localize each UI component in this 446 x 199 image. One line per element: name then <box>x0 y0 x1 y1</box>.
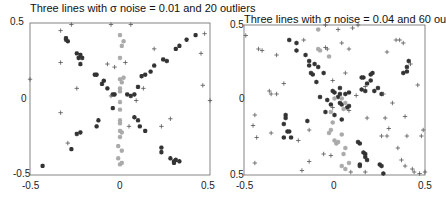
data-point-marker <box>376 86 380 90</box>
outlier-marker <box>363 170 367 174</box>
outlier-marker <box>356 23 360 27</box>
outlier-marker <box>385 50 389 54</box>
data-point-marker <box>327 131 331 135</box>
data-point-marker <box>343 146 347 150</box>
data-point-marker <box>116 156 120 160</box>
scatter-plots <box>0 0 446 199</box>
outlier-marker <box>253 161 257 165</box>
outlier-marker <box>390 101 394 105</box>
data-point-marker <box>138 124 142 128</box>
data-point-marker <box>330 120 334 124</box>
data-point-marker <box>341 152 345 156</box>
outlier-marker <box>58 60 62 64</box>
data-point-marker <box>358 164 362 168</box>
data-point-marker <box>96 118 100 122</box>
data-point-marker <box>294 48 298 52</box>
data-point-marker <box>285 129 289 133</box>
data-point-marker <box>177 44 181 48</box>
data-point-marker <box>312 62 316 66</box>
outlier-marker <box>141 86 145 90</box>
data-point-marker <box>40 164 44 168</box>
outlier-marker <box>403 114 407 118</box>
outlier-marker <box>307 128 311 132</box>
data-point-marker <box>361 75 365 79</box>
outlier-marker <box>419 134 423 138</box>
data-point-marker <box>118 107 122 111</box>
data-point-marker <box>318 95 322 99</box>
data-point-marker <box>332 113 336 117</box>
outlier-marker <box>75 86 79 90</box>
outlier-marker <box>423 170 427 174</box>
data-point-marker <box>340 117 344 121</box>
data-point-marker <box>120 44 124 48</box>
outlier-marker <box>383 116 387 120</box>
data-point-marker <box>132 115 136 119</box>
data-point-marker <box>111 106 115 110</box>
outlier-marker <box>405 134 409 138</box>
data-point-marker <box>159 145 163 149</box>
data-point-marker <box>405 65 409 69</box>
outlier-marker <box>282 81 286 85</box>
data-point-marker <box>340 164 344 168</box>
data-point-marker <box>159 150 163 154</box>
plot-area-0 <box>28 22 212 175</box>
data-point-marker <box>118 121 122 125</box>
data-point-marker <box>343 92 347 96</box>
data-point-marker <box>343 167 347 171</box>
outlier-marker <box>58 110 62 114</box>
data-point-marker <box>316 27 320 31</box>
data-point-marker <box>314 80 318 84</box>
data-point-marker <box>152 63 156 67</box>
data-point-marker <box>369 78 373 82</box>
data-point-marker <box>307 59 311 63</box>
data-point-marker <box>321 71 325 75</box>
data-point-marker <box>120 80 124 84</box>
outlier-marker <box>202 31 206 35</box>
outlier-marker <box>123 60 127 64</box>
data-point-marker <box>283 116 287 120</box>
data-point-marker <box>66 39 70 43</box>
data-point-marker <box>177 159 181 163</box>
data-point-marker <box>343 101 347 105</box>
outlier-marker <box>336 27 340 31</box>
data-point-marker <box>303 53 307 57</box>
outlier-marker <box>349 170 353 174</box>
outlier-marker <box>296 138 300 142</box>
data-point-marker <box>372 89 376 93</box>
data-point-marker <box>282 135 286 139</box>
outlier-marker <box>365 116 369 120</box>
outlier-marker <box>105 62 109 66</box>
data-point-marker <box>174 47 178 51</box>
data-point-marker <box>105 86 109 90</box>
data-point-marker <box>365 158 369 162</box>
data-point-marker <box>358 141 362 145</box>
data-point-marker <box>327 54 331 58</box>
outlier-marker <box>66 141 70 145</box>
data-point-marker <box>120 161 124 165</box>
outlier-marker <box>251 123 255 127</box>
data-point-marker <box>94 72 98 76</box>
outlier-marker <box>127 124 131 128</box>
outlier-marker <box>152 47 156 51</box>
data-point-marker <box>405 69 409 73</box>
data-point-marker <box>100 82 104 86</box>
data-point-marker <box>316 65 320 69</box>
data-point-marker <box>118 89 122 93</box>
outlier-marker <box>387 126 391 130</box>
outlier-marker <box>201 83 205 87</box>
outlier-marker <box>329 153 333 157</box>
outlier-marker <box>396 146 400 150</box>
data-point-marker <box>294 41 298 45</box>
outlier-marker <box>340 41 344 45</box>
outlier-marker <box>58 28 62 32</box>
data-point-marker <box>340 96 344 100</box>
outlier-marker <box>254 135 258 139</box>
outlier-marker <box>350 26 354 30</box>
data-point-marker <box>165 59 169 63</box>
data-point-marker <box>381 171 385 175</box>
data-point-marker <box>120 148 124 152</box>
data-point-marker <box>75 132 79 136</box>
data-point-marker <box>76 56 80 60</box>
outlier-marker <box>302 38 306 42</box>
plot-area-1 <box>244 23 428 176</box>
